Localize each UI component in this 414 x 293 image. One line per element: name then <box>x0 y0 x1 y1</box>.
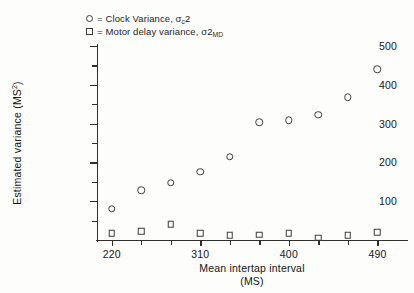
data-point-square <box>256 231 263 238</box>
y-axis-tick-label: 400 <box>379 79 397 91</box>
y-axis-tick-label: 300 <box>379 118 397 130</box>
legend-item-label: Clock Variance, σc2 <box>106 13 191 25</box>
y-axis-tick <box>90 201 97 202</box>
chart-legend: =Clock Variance, σc2=Motor delay varianc… <box>86 12 346 38</box>
x-axis-minor-tick <box>259 240 260 245</box>
y-axis-title-superscript: 2 <box>11 85 18 89</box>
y-axis-tick <box>90 85 97 86</box>
data-point-square <box>286 230 293 237</box>
y-axis-tick-label: 100 <box>379 195 397 207</box>
data-point-circle <box>285 117 293 125</box>
plot-area: 100200300400500220310400490 <box>97 46 407 240</box>
legend-item: =Clock Variance, σc2 <box>86 12 346 25</box>
legend-equals-sign: = <box>97 26 103 37</box>
data-point-square <box>345 232 352 239</box>
x-axis-title-line1: Mean intertap interval <box>97 262 407 275</box>
x-axis-line <box>96 240 408 241</box>
x-axis-tick <box>200 240 201 246</box>
y-axis-minor-tick <box>92 182 97 183</box>
data-point-circle <box>197 168 205 176</box>
y-axis-title-main: Estimated variance (MS <box>11 89 23 205</box>
legend-subscript: c <box>182 18 185 25</box>
figure-canvas: =Clock Variance, σc2=Motor delay varianc… <box>0 0 414 293</box>
y-axis-title-tail: ) <box>11 81 23 85</box>
x-axis-title: Mean intertap interval (MS) <box>97 262 407 288</box>
square-marker-icon <box>86 28 93 35</box>
y-axis-tick-label: 500 <box>379 40 397 52</box>
data-point-square <box>168 221 175 228</box>
x-axis-tick <box>112 240 113 246</box>
data-point-circle <box>108 205 116 213</box>
x-axis-minor-tick <box>230 240 231 245</box>
data-point-circle <box>226 153 234 161</box>
x-axis-tick <box>289 240 290 246</box>
data-point-square <box>138 228 145 235</box>
x-axis-tick-label: 310 <box>191 248 209 260</box>
x-axis-tick-label: 400 <box>280 248 298 260</box>
legend-item: =Motor delay variance, σ2MD <box>86 25 346 38</box>
y-axis-tick-label: 200 <box>379 156 397 168</box>
y-axis-minor-tick <box>92 65 97 66</box>
data-point-square <box>374 229 381 236</box>
data-point-circle <box>344 93 352 101</box>
data-point-square <box>109 230 116 237</box>
data-point-circle <box>374 66 382 74</box>
y-axis-title: Estimated variance (MS2) <box>11 81 23 205</box>
data-point-square <box>315 234 322 241</box>
y-axis-tick <box>90 124 97 125</box>
data-point-circle <box>167 179 175 187</box>
legend-subscript: MD <box>213 31 224 38</box>
data-point-circle <box>138 187 146 195</box>
data-point-circle <box>315 111 323 119</box>
legend-item-label: Motor delay variance, σ2MD <box>106 26 224 38</box>
data-point-circle <box>256 119 264 127</box>
circle-marker-icon <box>86 15 93 22</box>
y-axis-tick <box>90 162 97 163</box>
x-axis-tick <box>377 240 378 246</box>
x-axis-minor-tick <box>141 240 142 245</box>
data-point-square <box>227 232 234 239</box>
y-axis-minor-tick <box>92 143 97 144</box>
x-axis-tick-label: 220 <box>103 248 121 260</box>
y-axis-minor-tick <box>92 221 97 222</box>
data-point-square <box>197 230 204 237</box>
x-axis-tick-label: 490 <box>368 248 386 260</box>
y-axis-minor-tick <box>92 104 97 105</box>
y-axis-tick <box>90 46 97 47</box>
x-axis-minor-tick <box>348 240 349 245</box>
x-axis-minor-tick <box>171 240 172 245</box>
legend-equals-sign: = <box>97 13 103 24</box>
x-axis-title-line2: (MS) <box>97 275 407 288</box>
